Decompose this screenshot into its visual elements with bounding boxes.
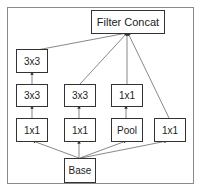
col1-mid-3x3-node: 3x3 xyxy=(16,84,48,107)
col1-top-3x3-node: 3x3 xyxy=(16,49,48,73)
filter-concat-node: Filter Concat xyxy=(91,10,165,34)
base-node: Base xyxy=(64,158,96,183)
col2-bot-1x1-node: 1x1 xyxy=(64,118,96,142)
col1-bot-1x1-node: 1x1 xyxy=(16,118,48,142)
col3-bot-pool-node: Pool xyxy=(111,118,143,142)
col2-mid-3x3-node: 3x3 xyxy=(64,84,96,107)
col3-mid-1x1-node: 1x1 xyxy=(111,84,143,107)
col4-bot-1x1-node: 1x1 xyxy=(154,118,186,142)
